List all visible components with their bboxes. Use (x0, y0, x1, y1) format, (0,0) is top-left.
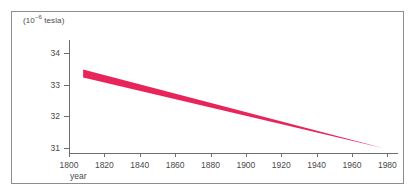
x-axis-title: year (70, 171, 87, 181)
uncertainty-band-polygon (83, 70, 384, 149)
figure-frame: (10−6 tesla) 31323334 180018201840186018… (11, 11, 404, 184)
plot-area: (10−6 tesla) 31323334 180018201840186018… (12, 12, 405, 185)
data-band-chart (12, 12, 405, 185)
